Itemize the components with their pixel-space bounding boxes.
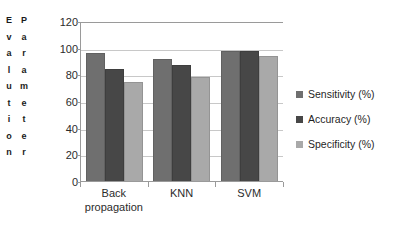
y-axis-title-letter: r	[22, 45, 26, 62]
y-axis-title-letter: n	[6, 144, 12, 161]
y-axis-title-letter: t	[8, 95, 11, 112]
x-axis-tick-mark	[283, 182, 284, 187]
y-axis-title-letter: E	[6, 12, 12, 29]
y-axis-title-letter: r	[22, 144, 26, 161]
legend-swatch-icon	[296, 141, 303, 148]
bar	[105, 69, 124, 182]
y-axis-title-letter: i	[8, 111, 11, 128]
y-axis-tick-label: 120	[50, 16, 78, 28]
legend-item: Sensitivity (%)	[296, 88, 375, 100]
y-axis-title-letter: a	[7, 45, 12, 62]
bar	[259, 56, 278, 182]
y-axis-title-letter: e	[22, 128, 27, 145]
legend-swatch-icon	[296, 91, 303, 98]
bar	[153, 59, 172, 182]
y-axis-tick-mark	[76, 102, 80, 103]
y-axis-title-letter: v	[7, 29, 12, 46]
y-axis-tick-label: 0	[50, 176, 78, 188]
bar-chart: Evalution Parameter 120100806040200 Back…	[0, 0, 408, 226]
plot-area	[80, 22, 283, 182]
y-axis-tick-mark	[76, 75, 80, 76]
bar-group	[148, 23, 215, 182]
y-axis-title-letter: o	[6, 128, 12, 145]
x-axis-category-label: SVM	[215, 186, 283, 214]
x-axis-category-label-line: SVM	[215, 186, 283, 200]
bar	[124, 82, 143, 182]
y-axis-title-letter: a	[22, 62, 27, 79]
x-axis-category-label-line: Back	[80, 186, 148, 200]
y-axis-title-letter: t	[23, 111, 26, 128]
y-axis-tick-label: 100	[50, 43, 78, 55]
legend-label: Sensitivity (%)	[308, 88, 375, 100]
y-axis-title-word-1: Evalution	[6, 12, 12, 212]
bar-groups	[81, 23, 283, 182]
y-axis-title-letter: e	[22, 95, 27, 112]
legend: Sensitivity (%)Accuracy (%)Specificity (…	[296, 88, 375, 150]
y-axis-title-letter: u	[6, 78, 12, 95]
y-axis-title: Evalution Parameter	[6, 12, 52, 212]
legend-swatch-icon	[296, 116, 303, 123]
x-axis-category-label-line: propagation	[80, 200, 148, 214]
bar	[191, 77, 210, 182]
bar	[221, 51, 240, 182]
legend-item: Accuracy (%)	[296, 113, 375, 125]
y-axis-title-letter: l	[8, 62, 11, 79]
legend-label: Accuracy (%)	[308, 113, 370, 125]
legend-item: Specificity (%)	[296, 138, 375, 150]
x-axis-category-labels: BackpropagationKNNSVM	[80, 186, 283, 214]
y-axis-title-letter: a	[22, 29, 27, 46]
bar	[86, 53, 105, 182]
legend-label: Specificity (%)	[308, 138, 375, 150]
y-axis-tick-label: 40	[50, 123, 78, 135]
y-axis-title-letter: P	[21, 12, 27, 29]
y-axis-tick-label: 80	[50, 69, 78, 81]
y-axis-tick-mark	[76, 182, 80, 183]
x-axis-category-label: Backpropagation	[80, 186, 148, 214]
y-axis-tick-mark	[76, 129, 80, 130]
bar-group	[216, 23, 283, 182]
bar-group	[81, 23, 148, 182]
y-axis-tick-mark	[76, 22, 80, 23]
x-axis-category-label: KNN	[148, 186, 216, 214]
y-axis-tick-mark	[76, 155, 80, 156]
y-axis-tick-mark	[76, 49, 80, 50]
y-axis-tick-label: 20	[50, 149, 78, 161]
y-axis-tick-labels: 120100806040200	[48, 22, 78, 182]
y-axis-title-word-2: Parameter	[20, 12, 28, 212]
bar	[172, 65, 191, 182]
y-axis-tick-label: 60	[50, 96, 78, 108]
y-axis-title-letter: m	[20, 78, 28, 95]
x-axis-category-label-line: KNN	[148, 186, 216, 200]
bar	[240, 51, 259, 182]
